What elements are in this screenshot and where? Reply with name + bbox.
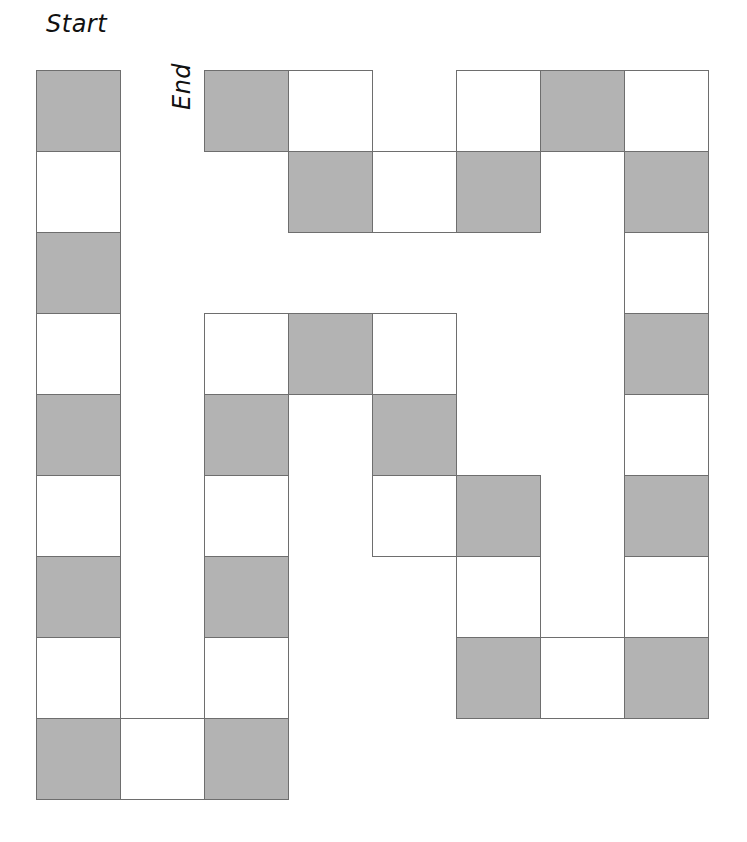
board-square (456, 70, 541, 152)
board-square (372, 475, 457, 557)
board-square (120, 718, 205, 800)
board-square (288, 151, 373, 233)
board-square (456, 556, 541, 638)
board-square (36, 475, 121, 557)
board-square (456, 637, 541, 719)
board-square (36, 394, 121, 476)
board-square (540, 637, 625, 719)
board-square (36, 313, 121, 395)
end-label: End (168, 63, 196, 110)
board-square (456, 151, 541, 233)
board-square (624, 394, 709, 476)
board-square (204, 394, 289, 476)
board-square (372, 151, 457, 233)
end-square (204, 70, 289, 152)
start-square (36, 70, 121, 152)
board-square (624, 232, 709, 314)
board-square (624, 70, 709, 152)
game-board: Start End (0, 0, 747, 842)
board-square (204, 718, 289, 800)
board-square (204, 475, 289, 557)
board-square (36, 151, 121, 233)
board-square (624, 475, 709, 557)
board-square (204, 313, 289, 395)
board-square (36, 232, 121, 314)
board-square (456, 475, 541, 557)
board-square (540, 70, 625, 152)
board-square (36, 718, 121, 800)
board-square (624, 556, 709, 638)
board-square (372, 394, 457, 476)
board-square (624, 313, 709, 395)
board-square (372, 313, 457, 395)
board-square (288, 313, 373, 395)
board-square (36, 637, 121, 719)
board-square (288, 70, 373, 152)
board-square (624, 637, 709, 719)
start-label: Start (46, 10, 107, 38)
board-square (624, 151, 709, 233)
board-square (204, 556, 289, 638)
board-square (36, 556, 121, 638)
board-square (204, 637, 289, 719)
